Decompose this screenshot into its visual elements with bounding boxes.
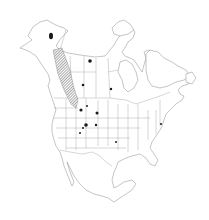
- occurrence-dot-utah-north: [84, 123, 88, 127]
- occurrence-dot-wyoming: [96, 112, 99, 115]
- newfoundland: [186, 72, 196, 84]
- north-america-outline: [20, 20, 193, 202]
- occurrence-dot-idaho: [79, 108, 82, 111]
- occurrence-dot-oklahoma: [115, 141, 117, 143]
- occurrence-dot-nwt: [88, 59, 92, 63]
- occurrence-dot-colorado: [95, 124, 97, 126]
- occurrence-dot-utah-south: [82, 127, 84, 129]
- distribution-map: [0, 0, 209, 220]
- occurrence-dot-alaska: [49, 33, 53, 39]
- occurrence-dot-alberta: [82, 84, 85, 87]
- occurrence-dot-new-jersey: [160, 123, 162, 125]
- occurrence-dot-arizona: [79, 132, 81, 134]
- occurrence-dot-montana: [86, 105, 88, 107]
- occurrence-dot-saskatchewan: [110, 88, 112, 90]
